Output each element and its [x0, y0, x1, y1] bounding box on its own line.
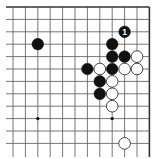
black-stone: 1	[119, 26, 131, 38]
black-stone	[106, 63, 118, 75]
black-stone	[106, 38, 118, 50]
white-stone	[106, 100, 118, 112]
white-stone	[119, 63, 131, 75]
go-board-svg: 1	[0, 0, 155, 159]
white-stone	[119, 138, 131, 150]
move-number-label: 1	[122, 27, 127, 37]
black-stone	[94, 88, 106, 100]
star-point	[36, 117, 39, 120]
black-stone	[82, 63, 94, 75]
black-stone	[119, 51, 131, 63]
white-stone	[131, 63, 143, 75]
black-stone	[32, 38, 44, 50]
black-stone	[106, 51, 118, 63]
go-board-diagram: 1	[0, 0, 155, 159]
white-stone	[131, 51, 143, 63]
white-stone	[94, 63, 106, 75]
black-stone	[94, 76, 106, 88]
white-stone	[106, 88, 118, 100]
white-stone	[106, 76, 118, 88]
star-point	[111, 117, 114, 120]
